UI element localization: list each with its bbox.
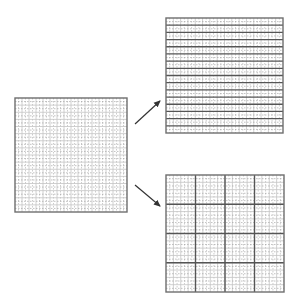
arrow-to-block-partition-icon [135,185,160,206]
grid-partition-diagram [0,0,300,307]
row-partitioned-grid-panel [166,18,283,133]
source-grid-panel [15,98,127,212]
block-partitioned-grid-panel [166,175,284,292]
arrow-to-row-partition-icon [135,101,160,124]
